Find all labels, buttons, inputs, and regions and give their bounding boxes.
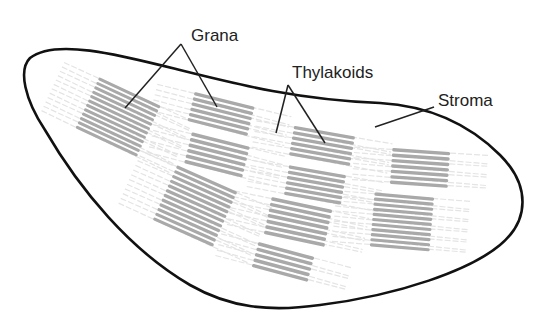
granum-stack — [75, 77, 160, 157]
label-stroma: Stroma — [438, 92, 493, 109]
granum-stack — [284, 165, 346, 205]
label-thylakoids: Thylakoids — [292, 64, 373, 81]
label-grana: Grana — [191, 27, 238, 44]
granum-stack — [289, 126, 355, 166]
stroma-lamella-group — [41, 62, 195, 174]
granum-stack — [252, 242, 315, 282]
granum-stack — [390, 148, 450, 188]
grana-stacks — [75, 77, 450, 282]
chloroplast-drawing — [0, 0, 541, 325]
granum-stack — [184, 132, 250, 177]
leader-line-stroma — [375, 107, 434, 127]
stroma-lamella-group — [150, 83, 291, 145]
leader-line-grana — [125, 44, 181, 108]
chloroplast-diagram: Grana Thylakoids Stroma — [0, 0, 541, 325]
granum-stack — [264, 197, 333, 247]
granum-stack — [187, 92, 254, 136]
leader-line-grana — [181, 44, 217, 107]
